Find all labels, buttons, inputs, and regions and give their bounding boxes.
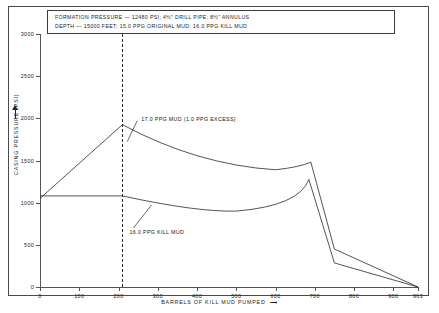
- y-tick: [36, 245, 40, 246]
- x-tick-label: 800: [349, 293, 359, 299]
- note-line-depth: DEPTH — 15000 FEET; 15.0 PPG ORIGINAL MU…: [55, 22, 394, 31]
- x-tick: [354, 287, 355, 291]
- y-tick-label: 2500: [21, 73, 34, 79]
- y-tick-label: 500: [24, 242, 34, 248]
- drill-pipe-displacement-marker: [122, 34, 123, 287]
- y-tick: [36, 161, 40, 162]
- x-axis-title-text: BARRELS OF KILL MUD PUMPED: [161, 299, 265, 305]
- x-axis-line: [40, 287, 418, 288]
- series-label: 16.0 PPG KILL MUD: [129, 229, 184, 235]
- x-tick-label: 100: [74, 293, 84, 299]
- x-tick-label: 400: [192, 293, 202, 299]
- y-tick-label: 2000: [21, 115, 34, 121]
- y-tick: [36, 203, 40, 204]
- x-tick: [276, 287, 277, 291]
- x-tick: [236, 287, 237, 291]
- chart-page: FORMATION PRESSURE — 12480 PSI; 4½" DRIL…: [0, 0, 439, 313]
- y-tick-label: 1000: [21, 200, 34, 206]
- series-label-leader: [133, 205, 151, 228]
- formation-note-box: FORMATION PRESSURE — 12480 PSI; 4½" DRIL…: [47, 10, 395, 34]
- y-axis-title: CASING PRESSURE (PSI): [13, 94, 19, 175]
- x-axis-arrow-icon: ⟶: [268, 299, 278, 305]
- x-tick-label: 700: [310, 293, 320, 299]
- y-tick-label: 1500: [21, 158, 34, 164]
- note-line-formation-pressure: FORMATION PRESSURE — 12480 PSI; 4½" DRIL…: [55, 13, 394, 22]
- y-tick: [36, 76, 40, 77]
- x-tick: [79, 287, 80, 291]
- series-label: 17.0 PPG MUD (1.0 PPG EXCESS): [141, 116, 236, 122]
- x-tick-label: 300: [153, 293, 163, 299]
- x-tick: [315, 287, 316, 291]
- x-tick-label: 900: [388, 293, 398, 299]
- x-tick-label: 200: [114, 293, 124, 299]
- x-tick: [40, 287, 41, 291]
- y-tick: [36, 34, 40, 35]
- y-tick-label: 3000: [21, 31, 34, 37]
- x-tick-label: 963: [413, 293, 423, 299]
- x-tick: [197, 287, 198, 291]
- y-tick-label: 0: [31, 284, 34, 290]
- x-tick-label: 0: [38, 293, 41, 299]
- series-line: [40, 125, 418, 287]
- x-tick-label: 500: [231, 293, 241, 299]
- series-line: [40, 179, 418, 287]
- curve-layer: [40, 34, 418, 287]
- y-tick: [36, 118, 40, 119]
- x-tick: [418, 287, 419, 291]
- x-axis-title: BARRELS OF KILL MUD PUMPED ⟶: [161, 299, 278, 305]
- x-tick: [393, 287, 394, 291]
- plot-area: 0500100015002000250030000100200300400500…: [40, 34, 418, 287]
- x-tick-label: 600: [271, 293, 281, 299]
- x-tick: [119, 287, 120, 291]
- x-tick: [158, 287, 159, 291]
